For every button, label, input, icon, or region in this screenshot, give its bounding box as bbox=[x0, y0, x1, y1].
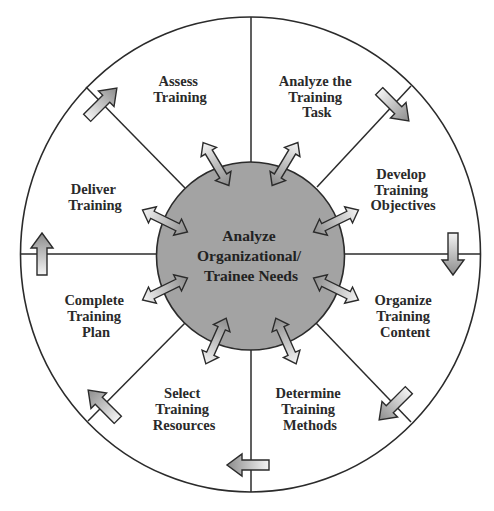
label-determine-training-methods: Determine Training Methods bbox=[276, 385, 345, 433]
label-develop-training-objectives: Develop Training Objectives bbox=[370, 166, 436, 213]
label-assess-training: Assess Training bbox=[153, 73, 207, 105]
label-organize-training-content: Organize Training Content bbox=[375, 292, 436, 340]
training-cycle-diagram: Analyze Organizational/ Trainee Needs As… bbox=[0, 0, 494, 511]
label-deliver-training: Deliver Training bbox=[68, 181, 122, 213]
